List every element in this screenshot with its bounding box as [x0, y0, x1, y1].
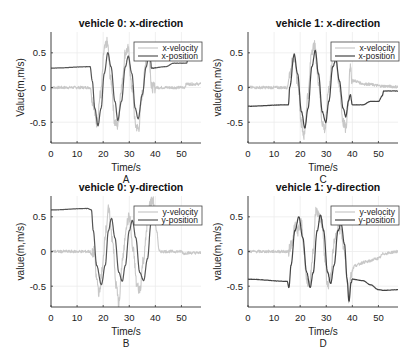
x-axis-label: Time/s — [308, 326, 338, 337]
x-tick-label: 50 — [373, 148, 384, 159]
x-tick-label: 40 — [347, 312, 358, 323]
x-tick-label: 40 — [150, 312, 161, 323]
x-tick-label: 10 — [72, 312, 83, 323]
y-tick-label: -0.5 — [227, 281, 243, 292]
x-axis-label: Time/s — [308, 162, 338, 173]
y-axis-label: value(m,m/s) — [212, 59, 223, 117]
x-tick-label: 0 — [245, 148, 250, 159]
legend-entry: y-position — [359, 215, 396, 225]
legend: y-velocityy-position — [331, 206, 399, 225]
x-tick-label: 10 — [269, 148, 280, 159]
panel-label: B — [123, 338, 130, 349]
x-tick-label: 20 — [295, 312, 306, 323]
x-tick-label: 30 — [124, 148, 135, 159]
x-axis-label: Time/s — [111, 326, 141, 337]
x-tick-label: 30 — [321, 312, 332, 323]
x-tick-label: 40 — [150, 148, 161, 159]
y-tick-label: 0.5 — [230, 47, 243, 58]
x-tick-label: 50 — [176, 312, 187, 323]
subplot-title: vehicle 1: x-direction — [276, 17, 380, 29]
x-tick-label: 0 — [245, 312, 250, 323]
x-tick-label: 20 — [98, 312, 109, 323]
legend: x-velocityx-position — [134, 42, 202, 61]
y-tick-label: -0.5 — [227, 117, 243, 128]
legend-entry: x-position — [359, 51, 396, 61]
x-tick-label: 20 — [295, 148, 306, 159]
x-axis-label: Time/s — [111, 162, 141, 173]
panel-label: D — [319, 338, 326, 349]
y-axis-label: Value(m,m/s) — [15, 58, 26, 117]
y-tick-label: 0.5 — [230, 211, 243, 222]
y-tick-label: -0.5 — [30, 117, 46, 128]
y-axis-label: value(m,m/s) — [15, 223, 26, 281]
x-tick-label: 10 — [72, 148, 83, 159]
subplot-A: 01020304050-0.500.5vehicle 0: x-directio… — [15, 17, 202, 185]
x-tick-label: 50 — [176, 148, 187, 159]
legend-entry: y-position — [162, 215, 199, 225]
y-tick-label: 0 — [238, 82, 243, 93]
x-tick-label: 30 — [124, 312, 135, 323]
legend-entry: x-position — [162, 51, 199, 61]
subplot-title: vehicle 0: y-direction — [79, 181, 183, 193]
x-tick-label: 20 — [98, 148, 109, 159]
subplot-title: vehicle 0: x-direction — [79, 17, 183, 29]
legend: y-velocityy-position — [134, 206, 202, 225]
y-axis-label: value(m,m/s) — [212, 223, 223, 281]
x-tick-label: 30 — [321, 148, 332, 159]
subplot-C: 01020304050-0.500.5vehicle 1: x-directio… — [212, 17, 399, 185]
y-tick-label: 0.5 — [33, 47, 46, 58]
y-tick-label: 0.5 — [33, 211, 46, 222]
x-tick-label: 0 — [48, 312, 53, 323]
y-tick-label: 0 — [41, 82, 46, 93]
figure: 01020304050-0.500.5vehicle 0: x-directio… — [0, 0, 418, 362]
legend: x-velocityx-position — [331, 42, 399, 61]
y-tick-label: -0.5 — [30, 281, 46, 292]
subplot-B: 01020304050-0.500.5vehicle 0: y-directio… — [15, 181, 202, 349]
y-tick-label: 0 — [41, 246, 46, 257]
subplot-title: vehicle 1: y-direction — [276, 181, 380, 193]
x-tick-label: 0 — [48, 148, 53, 159]
x-tick-label: 10 — [269, 312, 280, 323]
y-tick-label: 0 — [238, 246, 243, 257]
subplot-D: 01020304050-0.500.5vehicle 1: y-directio… — [212, 181, 399, 349]
x-tick-label: 50 — [373, 312, 384, 323]
x-tick-label: 40 — [347, 148, 358, 159]
